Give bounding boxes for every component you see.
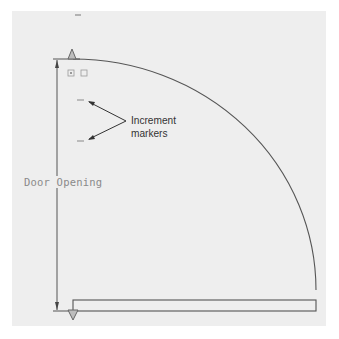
bottom-grip-icon[interactable] [68, 310, 78, 320]
grip-square-2-icon[interactable] [81, 70, 87, 76]
callout-arrow-1-icon [88, 101, 95, 106]
callout-arrow-2-icon [88, 135, 95, 140]
callout-leader-2 [89, 121, 126, 139]
callout-line-2: markers [131, 127, 176, 140]
dimension-arrow-top-icon [55, 60, 59, 68]
callout-line-1: Increment [131, 114, 176, 127]
door-leaf[interactable] [73, 300, 316, 311]
grip-square-1-dot [70, 72, 72, 74]
swing-arc [73, 59, 316, 290]
callout-label: Increment markers [131, 114, 176, 140]
top-grip-icon[interactable] [68, 49, 76, 59]
callout-leader-1 [89, 102, 126, 121]
dimension-arrow-bottom-icon [55, 302, 59, 310]
dimension-label: Door Opening [23, 176, 103, 188]
door-diagram [0, 0, 339, 339]
